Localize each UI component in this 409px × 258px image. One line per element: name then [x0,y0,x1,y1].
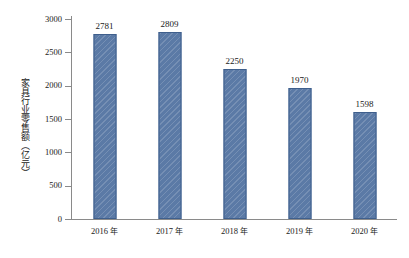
x-axis-category-label: 2016 年 [72,226,137,237]
y-axis-tick-label-text: 2500 [28,48,62,57]
y-axis-tick-label: 500 [26,181,62,190]
bar [288,88,311,219]
y-axis-tick [65,219,72,220]
bar-value-label: 2809 [161,19,179,29]
bar-value-label: 2250 [226,56,244,66]
bar [353,112,376,219]
bar [93,34,116,219]
x-axis-category-label: 2020 年 [332,226,397,237]
y-axis-tick [65,119,72,120]
bar-value-label: 2781 [96,21,114,31]
y-axis-tick-label-text: 500 [28,181,62,190]
y-axis-tick-label-text: 0 [28,215,62,224]
y-axis-tick-label-text: 3000 [28,15,62,24]
y-axis-tick-label-text: 1000 [28,148,62,157]
y-axis-tick [65,186,72,187]
y-axis-tick-label: 2500 [26,48,62,57]
plot-area: 27812809225019701598 [72,19,397,219]
y-axis-tick [65,152,72,153]
bar-group: 2781 [72,19,137,219]
y-axis-tick-label: 3000 [26,15,62,24]
x-axis-line [71,219,397,220]
y-axis-tick-label: 1500 [26,115,62,124]
y-axis-tick [65,86,72,87]
bar [158,32,181,219]
y-axis-tick-label: 0 [26,215,62,224]
y-axis-tick-label: 2000 [26,81,62,90]
bar-chart: 家具行业零售额（亿元） 050010001500200025003000 278… [0,0,409,258]
bar-group: 1970 [267,19,332,219]
y-axis-tick [65,19,72,20]
bar-group: 1598 [332,19,397,219]
bar-value-label: 1970 [291,75,309,85]
x-axis-category-label: 2018 年 [202,226,267,237]
y-axis-tick-label: 1000 [26,148,62,157]
bar-group: 2809 [137,19,202,219]
y-axis-tick [65,52,72,53]
bar-group: 2250 [202,19,267,219]
bar [223,69,246,219]
y-axis-tick-label-text: 1500 [28,115,62,124]
x-axis-category-label: 2017 年 [137,226,202,237]
y-axis-tick-label-text: 2000 [28,81,62,90]
bar-value-label: 1598 [356,99,374,109]
x-axis-category-label: 2019 年 [267,226,332,237]
